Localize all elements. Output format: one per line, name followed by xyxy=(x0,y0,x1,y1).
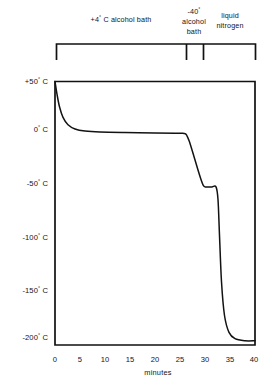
y-tick-label-minus150: -150° C xyxy=(22,285,48,295)
x-tick-label-35: 35 xyxy=(226,355,235,364)
bracket-label-warm-value: +4 xyxy=(91,15,100,24)
bracket-label-cold-value: -40 xyxy=(187,7,198,16)
x-axis-labels: 0 5 10 15 20 25 30 35 40 minutes xyxy=(53,355,258,377)
bath-stage-bracket xyxy=(57,44,256,60)
x-tick-label-15: 15 xyxy=(126,355,135,364)
y-tick-value-minus200: -200 xyxy=(22,333,38,342)
y-tick-label-minus200: -200° C xyxy=(22,332,48,342)
x-tick-label-40: 40 xyxy=(250,355,259,364)
bracket-label-cold-line3: bath xyxy=(187,27,202,36)
x-axis-title: minutes xyxy=(144,368,171,377)
bracket-label-alcohol-bath-warm: +4° C alcohol bath xyxy=(91,14,152,24)
x-tick-label-20: 20 xyxy=(151,355,160,364)
bracket-label-cold-line1: -40° xyxy=(187,6,200,16)
bracket-label-nitrogen-line2: nitrogen xyxy=(216,21,243,30)
bracket-labels: +4° C alcohol bath -40° alcohol bath liq… xyxy=(91,6,244,36)
y-unit-minus150: C xyxy=(40,286,48,295)
y-axis-labels: +50° C 0° C -50° C -100° C -150° C -200°… xyxy=(22,76,48,342)
x-tick-label-0: 0 xyxy=(53,355,57,364)
x-tick-label-5: 5 xyxy=(78,355,82,364)
y-tick-value-minus100: -100 xyxy=(22,233,38,242)
bracket-outline xyxy=(57,44,256,60)
bracket-label-cold-line2: alcohol xyxy=(182,17,206,26)
y-unit-minus50: C xyxy=(40,179,48,188)
bracket-label-warm-rest: C alcohol bath xyxy=(101,15,151,24)
y-tick-label-0: 0° C xyxy=(34,124,49,134)
y-unit-minus100: C xyxy=(40,233,48,242)
y-tick-label-minus100: -100° C xyxy=(22,232,48,242)
degree-symbol-cold: ° xyxy=(198,6,200,12)
y-tick-value-minus150: -150 xyxy=(22,286,38,295)
plot-frame xyxy=(55,82,255,346)
x-tick-label-30: 30 xyxy=(201,355,210,364)
y-unit-minus200: C xyxy=(40,333,48,342)
y-tick-value-minus50: -50 xyxy=(27,179,38,188)
x-tick-label-10: 10 xyxy=(101,355,110,364)
y-tick-label-50: +50° C xyxy=(25,76,49,86)
temperature-curve xyxy=(55,82,255,341)
x-tick-label-25: 25 xyxy=(176,355,185,364)
axis-frame-outline xyxy=(55,82,255,346)
y-unit-50: C xyxy=(40,77,48,86)
bracket-label-nitrogen-line1: liquid xyxy=(221,11,239,20)
y-tick-value-50: +50 xyxy=(25,77,38,86)
y-tick-label-minus50: -50° C xyxy=(27,178,49,188)
y-unit-0: C xyxy=(40,125,48,134)
data-series-group xyxy=(55,82,255,341)
cooling-curve-figure: +4° C alcohol bath -40° alcohol bath liq… xyxy=(0,0,272,386)
